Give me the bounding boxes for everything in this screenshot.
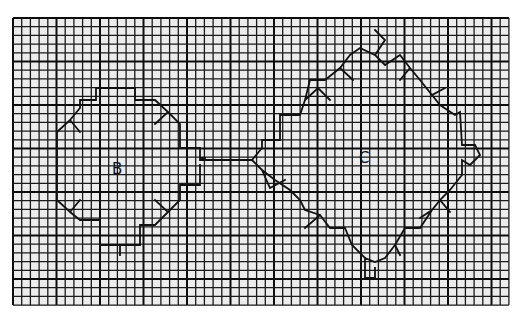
- label-c: C: [359, 149, 369, 167]
- graph-paper-diagram: B C: [0, 0, 524, 320]
- label-b: B: [112, 160, 122, 178]
